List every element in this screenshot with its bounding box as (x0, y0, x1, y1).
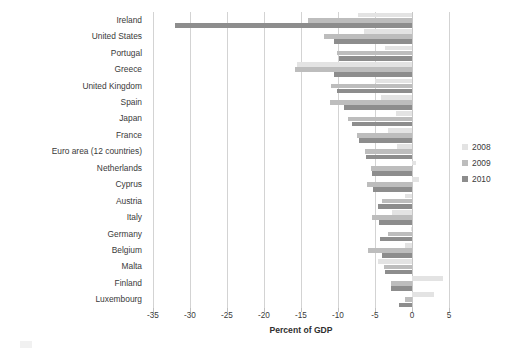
x-axis-title: Percent of GDP (153, 325, 449, 335)
bar (380, 237, 412, 242)
category-label: Ireland (116, 16, 142, 24)
category-label: Luxembourg (95, 295, 142, 303)
category-label: Cyprus (115, 180, 142, 188)
bar (352, 122, 412, 127)
bar (396, 111, 412, 116)
bar (375, 79, 412, 84)
bar (330, 100, 412, 105)
bar (373, 187, 412, 192)
bar (412, 276, 443, 281)
category-label: United Kingdom (82, 82, 142, 90)
bar (337, 51, 412, 56)
bar (378, 204, 412, 209)
legend-item: 2010 (462, 171, 491, 187)
gridline (153, 12, 154, 308)
category-label: Italy (127, 213, 142, 221)
bar (331, 84, 412, 89)
x-axis-tick-label: -10 (318, 311, 358, 320)
bar (364, 29, 412, 34)
category-label: Japan (119, 114, 142, 122)
bar (388, 232, 412, 237)
bar (412, 161, 416, 166)
bar (339, 56, 412, 61)
chart-legend: 200820092010 (462, 139, 491, 187)
category-label: Spain (121, 98, 142, 106)
x-axis-tick-label: -20 (244, 311, 284, 320)
gridline (264, 12, 265, 308)
category-label: Netherlands (97, 164, 142, 172)
category-label: Belgium (112, 246, 142, 254)
bar (391, 281, 412, 286)
category-label: Austria (116, 197, 142, 205)
gridline (301, 12, 302, 308)
x-axis-tick-label: -35 (133, 311, 173, 320)
category-label: Greece (115, 65, 142, 73)
legend-swatch-icon (462, 160, 468, 166)
bar (378, 259, 412, 264)
bar (385, 270, 412, 275)
bar (348, 117, 412, 122)
bar (382, 199, 412, 204)
bar (411, 227, 412, 232)
gridline (227, 12, 228, 308)
bar (367, 182, 412, 187)
bar (365, 149, 412, 154)
chart-container: IrelandUnited StatesPortugalGreeceUnited… (0, 0, 514, 353)
x-axis-tick-label: -5 (355, 311, 395, 320)
bar (359, 138, 412, 143)
gridline (190, 12, 191, 308)
plot-area (153, 12, 449, 308)
bar (372, 171, 412, 176)
bar (399, 303, 412, 308)
bar (392, 210, 412, 215)
bar (382, 253, 412, 258)
legend-label: 2009 (472, 158, 491, 168)
bar (385, 46, 412, 51)
x-axis-tick-label: 0 (392, 311, 432, 320)
bar (397, 144, 412, 149)
category-label: Euro area (12 countries) (52, 147, 142, 155)
bar (391, 286, 412, 291)
bar (388, 128, 412, 133)
x-axis-tick-label: -15 (281, 311, 321, 320)
bar (384, 265, 412, 270)
bar (372, 215, 412, 220)
bar (324, 34, 412, 39)
bar (358, 13, 412, 18)
bar (381, 95, 412, 100)
bar (357, 133, 413, 138)
bar (412, 292, 434, 297)
bar (405, 194, 412, 199)
category-axis: IrelandUnited StatesPortugalGreeceUnited… (0, 12, 148, 308)
bar (405, 297, 412, 302)
x-axis-tick-label: 5 (429, 311, 469, 320)
bar (308, 18, 412, 23)
bar (366, 155, 412, 160)
legend-item: 2008 (462, 139, 491, 155)
category-label: France (116, 131, 142, 139)
category-label: Portugal (111, 49, 142, 57)
bar (379, 220, 412, 225)
legend-label: 2008 (472, 142, 491, 152)
bar (334, 72, 412, 77)
legend-swatch-icon (462, 176, 468, 182)
bar (297, 62, 412, 67)
legend-item: 2009 (462, 155, 491, 171)
bar (295, 67, 412, 72)
bar (371, 166, 412, 171)
category-label: Malta (122, 262, 142, 270)
bar (337, 89, 412, 94)
bar (175, 23, 412, 28)
legend-swatch-icon (462, 144, 468, 150)
bar (405, 243, 412, 248)
x-axis-tick-label: -30 (170, 311, 210, 320)
bar (334, 39, 412, 44)
corner-artifact (20, 341, 32, 348)
legend-label: 2010 (472, 174, 491, 184)
bar (412, 177, 419, 182)
category-label: Finland (115, 279, 142, 287)
category-label: United States (92, 32, 142, 40)
x-axis-tick-label: -25 (207, 311, 247, 320)
gridline (449, 12, 450, 308)
bar (368, 248, 412, 253)
